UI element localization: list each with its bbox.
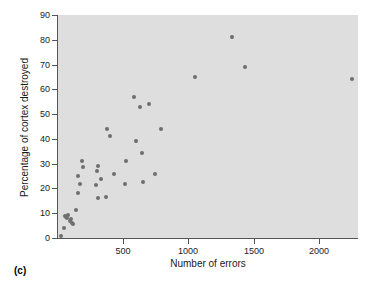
data-point (59, 234, 63, 238)
x-axis-tick-label: 2000 (299, 246, 339, 256)
data-point (62, 226, 66, 230)
y-axis-tick-label: 70 (26, 61, 50, 70)
y-axis-tick-label: 60 (26, 85, 50, 94)
x-axis-tick (188, 239, 189, 244)
x-axis-tick (254, 239, 255, 244)
x-axis-tick-label: 500 (103, 246, 143, 256)
data-point (350, 77, 354, 81)
y-axis-tick-label: 40 (26, 135, 50, 144)
data-point (80, 159, 84, 163)
panel-label: (c) (14, 265, 26, 276)
y-axis-tick-label: 80 (26, 36, 50, 45)
data-point (112, 172, 116, 176)
y-axis-tick-label: 50 (26, 110, 50, 119)
data-point (159, 127, 163, 131)
data-point (74, 208, 78, 212)
y-axis-line (57, 15, 58, 239)
data-point (99, 177, 103, 181)
y-axis-tick (52, 188, 57, 189)
y-axis-tick (52, 114, 57, 115)
scatter-plot-figure: 0102030405060708090 500100015002000 Numb… (0, 0, 368, 292)
y-axis-tick (52, 139, 57, 140)
data-point (138, 105, 142, 109)
y-axis-tick (52, 40, 57, 41)
data-point (66, 213, 70, 217)
y-axis-tick (52, 213, 57, 214)
x-axis-tick (319, 239, 320, 244)
y-axis-tick-label: 10 (26, 209, 50, 218)
y-axis-tick-label: 0 (26, 234, 50, 243)
data-point (140, 151, 144, 155)
data-point (243, 65, 247, 69)
data-point (78, 182, 82, 186)
data-point (123, 182, 127, 186)
data-point (153, 172, 157, 176)
data-point (94, 183, 98, 187)
x-axis-tick-label: 1500 (234, 246, 274, 256)
y-axis-tick (52, 164, 57, 165)
y-axis-tick-label: 20 (26, 184, 50, 193)
y-axis-tick-label: 30 (26, 160, 50, 169)
x-axis-tick-label: 1000 (168, 246, 208, 256)
y-axis-tick-label: 90 (26, 11, 50, 20)
plot-area (58, 15, 358, 238)
data-point (105, 127, 109, 131)
y-axis-tick (52, 15, 57, 16)
y-axis-tick (52, 65, 57, 66)
y-axis-title: Percentage of cortex destroyed (19, 16, 30, 240)
data-point (132, 95, 136, 99)
y-axis-tick (52, 89, 57, 90)
data-point (230, 35, 234, 39)
data-point (193, 75, 197, 79)
x-axis-line (57, 238, 358, 239)
data-point (96, 164, 100, 168)
data-point (124, 159, 128, 163)
x-axis-title: Number of errors (58, 258, 358, 269)
y-axis-tick (52, 238, 57, 239)
x-axis-tick (123, 239, 124, 244)
